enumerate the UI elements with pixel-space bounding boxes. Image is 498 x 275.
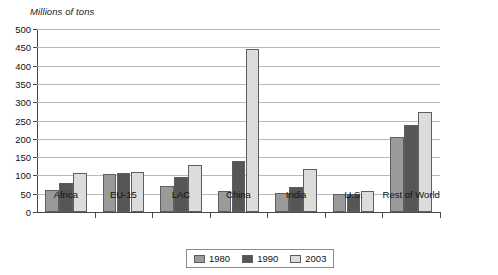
y-tick-label: 150 xyxy=(15,152,31,163)
x-tick-mark xyxy=(440,212,441,218)
bar-cluster xyxy=(160,29,202,212)
bar-cluster xyxy=(218,29,260,212)
y-tick-mark xyxy=(33,194,37,195)
y-tick-label: 0 xyxy=(26,207,31,218)
y-tick-mark xyxy=(33,102,37,103)
gridline xyxy=(37,212,440,213)
x-tick-mark xyxy=(267,212,268,218)
x-axis-label: U.S. xyxy=(344,189,362,200)
legend-item: 1980 xyxy=(194,253,230,264)
bar xyxy=(246,49,260,212)
bar-chart: Millions of tons 05010015020025030035040… xyxy=(0,0,498,275)
bar-cluster xyxy=(103,29,145,212)
chart-legend: 198019902003 xyxy=(186,249,334,268)
y-tick-mark xyxy=(33,157,37,158)
x-tick-mark xyxy=(210,212,211,218)
y-axis-title: Millions of tons xyxy=(30,6,94,17)
y-tick-label: 50 xyxy=(20,188,31,199)
y-tick-mark xyxy=(33,121,37,122)
bar-cluster xyxy=(275,29,317,212)
x-tick-mark xyxy=(382,212,383,218)
bar xyxy=(361,191,375,212)
x-axis-label: India xyxy=(286,189,307,200)
x-axis-label: Rest of World xyxy=(383,189,440,200)
legend-item: 1990 xyxy=(242,253,278,264)
bar-cluster xyxy=(390,29,432,212)
legend-label: 1980 xyxy=(209,253,230,264)
x-tick-mark xyxy=(325,212,326,218)
y-tick-label: 400 xyxy=(15,60,31,71)
y-tick-mark xyxy=(33,175,37,176)
y-tick-label: 350 xyxy=(15,78,31,89)
legend-label: 2003 xyxy=(305,253,326,264)
y-tick-label: 500 xyxy=(15,24,31,35)
bar xyxy=(232,161,246,212)
legend-item: 2003 xyxy=(290,253,326,264)
bar xyxy=(188,165,202,212)
x-axis-label: LAC xyxy=(172,189,190,200)
y-tick-label: 300 xyxy=(15,97,31,108)
legend-swatch-icon xyxy=(194,255,205,263)
bar-cluster xyxy=(333,29,375,212)
y-tick-mark xyxy=(33,29,37,30)
plot-area: 050100150200250300350400450500 xyxy=(37,29,440,212)
x-tick-mark xyxy=(152,212,153,218)
y-tick-label: 250 xyxy=(15,115,31,126)
bar-cluster xyxy=(45,29,87,212)
y-tick-mark xyxy=(33,84,37,85)
legend-label: 1990 xyxy=(257,253,278,264)
bar xyxy=(390,137,404,212)
y-tick-label: 450 xyxy=(15,42,31,53)
legend-swatch-icon xyxy=(290,255,301,263)
legend-swatch-icon xyxy=(242,255,253,263)
y-tick-label: 200 xyxy=(15,133,31,144)
x-tick-mark xyxy=(95,212,96,218)
y-tick-mark xyxy=(33,66,37,67)
y-tick-mark xyxy=(33,47,37,48)
y-tick-label: 100 xyxy=(15,170,31,181)
y-tick-mark xyxy=(33,212,37,213)
x-axis-label: China xyxy=(226,189,251,200)
x-axis-label: EU-15 xyxy=(110,189,137,200)
x-axis-label: Africa xyxy=(54,189,78,200)
y-tick-mark xyxy=(33,139,37,140)
